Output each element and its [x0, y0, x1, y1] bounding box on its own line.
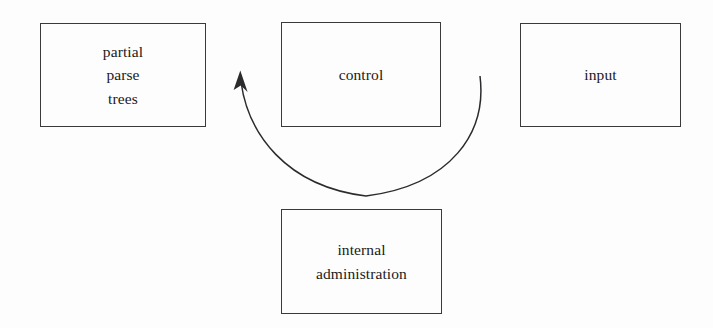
node-input[interactable]: input — [520, 23, 681, 127]
feedback-arrowhead — [234, 71, 248, 93]
node-partial-parse-trees[interactable]: partial parse trees — [40, 23, 206, 127]
node-label-line: input — [584, 63, 616, 86]
node-label-line: control — [339, 63, 384, 86]
node-internal-administration[interactable]: internal administration — [281, 209, 442, 314]
node-label-line: administration — [316, 262, 407, 285]
node-label-line: trees — [108, 87, 138, 110]
parser-architecture-diagram: partial parse trees control input intern… — [0, 0, 713, 328]
node-control[interactable]: control — [281, 22, 441, 127]
node-label-line: partial — [103, 40, 143, 63]
node-label-line: parse — [106, 63, 139, 86]
node-label-line: internal — [337, 238, 385, 261]
